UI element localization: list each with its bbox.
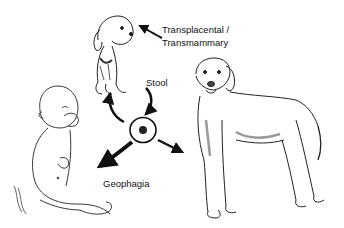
arrow-egg-to-child xyxy=(100,142,132,166)
label-stool: Stool xyxy=(146,77,168,89)
label-transmammary: Transmammary xyxy=(162,37,228,49)
arrow-egg-to-puppy xyxy=(110,94,124,122)
puppy-illustration xyxy=(94,16,133,94)
label-transplacental: Transplacental / xyxy=(162,24,229,36)
life-cycle-diagram: Transplacental / Transmammary Stool Geop… xyxy=(0,0,344,228)
arrow-adult-to-puppy xyxy=(140,26,162,38)
egg-illustration xyxy=(130,118,156,143)
arrow-egg-to-adult-dog xyxy=(158,140,182,152)
adult-dog-illustration xyxy=(196,58,324,218)
label-geophagia: Geophagia xyxy=(103,178,149,190)
arrow-stool-to-egg xyxy=(146,88,151,114)
child-illustration xyxy=(14,86,112,214)
